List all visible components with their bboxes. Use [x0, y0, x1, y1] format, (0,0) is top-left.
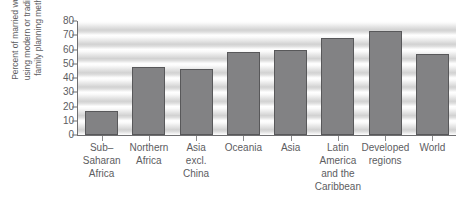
x-category-label-line: Developed: [362, 141, 409, 154]
x-category-label: NorthernAfrica: [125, 141, 172, 167]
x-category-label-line: Saharan: [78, 154, 125, 167]
x-axis-category-labels: Sub–SaharanAfricaNorthernAfricaAsiaexcl.…: [78, 141, 456, 203]
x-category-label-line: Caribbean: [314, 180, 361, 193]
x-tick-mark: [291, 136, 292, 141]
y-tick-mark: [72, 63, 77, 64]
x-category-label-line: Northern: [125, 141, 172, 154]
bar: [180, 69, 213, 135]
y-axis-title: Percent of married women using modern or…: [10, 0, 48, 95]
bar: [321, 38, 354, 135]
x-category-label: Sub–SaharanAfrica: [78, 141, 125, 180]
y-axis-title-line-2: using modern or traditional: [22, 0, 34, 80]
x-tick-mark: [102, 136, 103, 141]
y-tick-mark: [72, 78, 77, 79]
x-tick-mark: [243, 136, 244, 141]
x-tick-mark: [432, 136, 433, 141]
bar: [85, 111, 118, 135]
y-tick-mark: [72, 21, 77, 22]
x-category-label: World: [409, 141, 456, 154]
x-category-label-line: excl.: [173, 154, 220, 167]
x-category-label-line: China: [173, 167, 220, 180]
bar-chart-figure: Percent of married women using modern or…: [0, 0, 471, 206]
x-category-label-line: Oceania: [220, 141, 267, 154]
x-category-label: LatinAmericaand theCaribbean: [314, 141, 361, 193]
x-category-label: Asiaexcl.China: [173, 141, 220, 180]
bar-series: [78, 21, 456, 135]
y-axis-title-line-1: Percent of married women: [10, 0, 22, 80]
bar: [369, 31, 402, 135]
y-tick-mark: [72, 49, 77, 50]
bar: [227, 52, 260, 135]
x-category-label-line: Africa: [125, 154, 172, 167]
x-category-label-line: Africa: [78, 167, 125, 180]
bar: [274, 50, 307, 136]
y-tick-mark: [72, 106, 77, 107]
y-tick-mark: [72, 135, 77, 136]
x-category-label-line: Asia: [267, 141, 314, 154]
x-tick-mark: [385, 136, 386, 141]
x-category-label-line: and the: [314, 167, 361, 180]
x-category-label-line: America: [314, 154, 361, 167]
bar: [132, 67, 165, 135]
x-tick-mark: [196, 136, 197, 141]
x-category-label-line: regions: [362, 154, 409, 167]
x-category-label-line: Latin: [314, 141, 361, 154]
x-category-label: Developedregions: [362, 141, 409, 167]
y-tick-mark: [72, 92, 77, 93]
y-axis-tick-labels: 01020304050607080: [48, 21, 74, 135]
bar: [416, 54, 449, 135]
y-axis-title-line-3: family planning methods: [33, 0, 45, 76]
x-category-label: Oceania: [220, 141, 267, 154]
x-category-label: Asia: [267, 141, 314, 154]
y-tick-mark: [72, 120, 77, 121]
x-tick-mark: [149, 136, 150, 141]
x-tick-mark: [338, 136, 339, 141]
x-category-label-line: Sub–: [78, 141, 125, 154]
y-tick-mark: [72, 35, 77, 36]
x-category-label-line: World: [409, 141, 456, 154]
x-axis-line: [77, 135, 456, 136]
x-category-label-line: Asia: [173, 141, 220, 154]
